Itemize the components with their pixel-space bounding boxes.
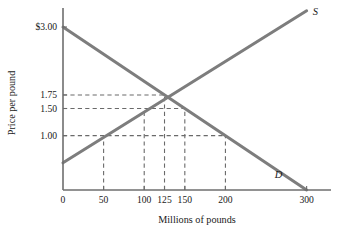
x-tick-label-50: 50 [99,194,109,205]
x-tick-label-100: 100 [137,194,152,205]
y-axis-title: Price per pound [6,71,17,136]
y-tick-label-1: 1.00 [40,130,57,141]
x-tick-label-200: 200 [218,194,233,205]
supply-demand-chart: 050100125150200300 $3.001.751.501.00 SD … [0,0,338,239]
x-tick-label-0: 0 [61,194,66,205]
x-tick-label-300: 300 [299,194,314,205]
x-tick-label-125: 125 [157,194,172,205]
y-tick-label-1_5: 1.50 [40,103,57,114]
x-axis-title: Millions of pounds [158,214,236,225]
curve-label-s: S [313,6,319,17]
x-tick-label-150: 150 [178,194,193,205]
curve-label-d: D [274,169,283,180]
y-tick-label-1_75: 1.75 [40,89,57,100]
y-tick-label-3: $3.00 [35,21,57,32]
